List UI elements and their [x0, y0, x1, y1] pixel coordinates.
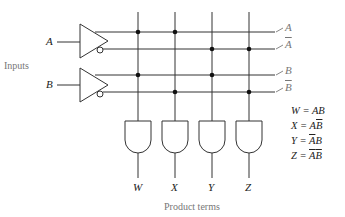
- product-terms-label: Product terms: [164, 202, 220, 212]
- line-label-a-bar: A: [285, 39, 292, 50]
- line-label-a: A: [285, 22, 292, 33]
- and-gate-w-icon: [125, 121, 151, 153]
- and-gate-x-icon: [162, 121, 188, 153]
- inverter-bubble-b-icon: [97, 91, 103, 97]
- buffer-b-icon: [80, 68, 108, 102]
- equation-y: Y = AB: [291, 136, 322, 147]
- and-gate-z-icon: [236, 121, 262, 153]
- equation-z: Z = AB: [291, 151, 322, 162]
- equation-w: W = AB: [291, 106, 325, 117]
- inputs-label: Inputs: [4, 61, 29, 71]
- input-label-a: A: [46, 36, 53, 47]
- output-label-w: W: [133, 182, 142, 193]
- buffer-a-icon: [80, 24, 108, 58]
- line-label-b-bar: B: [285, 82, 292, 93]
- equation-x: X = AB: [291, 121, 322, 132]
- output-label-z: Z: [245, 182, 251, 193]
- input-label-b: B: [46, 79, 53, 90]
- output-label-x: X: [171, 182, 178, 193]
- connection-dots: [136, 30, 252, 95]
- inverter-bubble-a-icon: [97, 47, 103, 53]
- output-label-y: Y: [208, 182, 214, 193]
- decoder-diagram: A B Inputs A A B B W X Y Z Product terms…: [0, 0, 345, 217]
- line-label-b: B: [285, 65, 292, 76]
- and-gate-y-icon: [199, 121, 225, 153]
